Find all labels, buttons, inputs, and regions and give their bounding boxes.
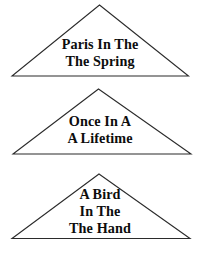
triangle-figure-once-in-a-lifetime: Once In A A Lifetime bbox=[0, 85, 200, 157]
illusion-figure-stage: Paris In The The Spring Once In A A Life… bbox=[0, 0, 200, 259]
triangle-outline-icon bbox=[0, 170, 200, 242]
triangle-outline-icon bbox=[0, 0, 200, 80]
triangle-figure-paris-in-the-spring: Paris In The The Spring bbox=[0, 0, 200, 80]
triangle-figure-a-bird-in-the-hand: A Bird In The The Hand bbox=[0, 170, 200, 242]
triangle-outline-icon bbox=[0, 85, 200, 157]
